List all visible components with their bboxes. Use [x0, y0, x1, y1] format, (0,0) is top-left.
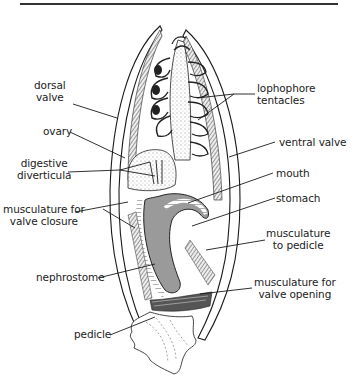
label-lophophore-tentacles: lophophore tentacles [257, 82, 315, 106]
label-mouth: mouth [276, 167, 310, 179]
label-nephrostome: nephrostome [36, 271, 105, 283]
label-stomach: stomach [276, 192, 320, 204]
label-musculature-valve-opening: musculature for valve opening [254, 276, 336, 300]
label-ventral-valve: ventral valve [279, 136, 346, 148]
label-musculature-valve-closure: musculature for valve closure [3, 203, 85, 227]
label-dorsal-valve: dorsal valve [34, 79, 66, 103]
label-digestive-diverticula: digestive diverticula [17, 157, 71, 181]
pedicle-shape [130, 312, 196, 374]
label-pedicle: pedicle [74, 328, 111, 340]
brachiopod-illustration [0, 0, 351, 379]
label-musculature-to-pedicle: musculature to pedicle [266, 227, 330, 251]
label-ovary: ovary [43, 125, 72, 137]
